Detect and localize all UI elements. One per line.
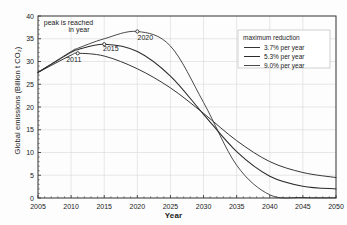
svg-text:2040: 2040 [262, 203, 278, 210]
svg-text:15: 15 [26, 126, 34, 133]
x-axis-title: Year [0, 211, 347, 220]
svg-text:40: 40 [26, 13, 34, 20]
svg-text:10: 10 [26, 149, 34, 156]
svg-text:2015: 2015 [103, 45, 119, 52]
svg-text:2020: 2020 [137, 34, 153, 41]
svg-text:3.7% per year: 3.7% per year [264, 44, 305, 52]
svg-text:2010: 2010 [63, 203, 79, 210]
svg-text:5: 5 [30, 172, 34, 179]
emissions-line-chart: 0510152025303540 20052010201520202025203… [0, 0, 347, 225]
svg-text:20: 20 [26, 104, 34, 111]
svg-text:2011: 2011 [66, 56, 81, 63]
svg-text:2020: 2020 [130, 203, 146, 210]
chart-plot-area: 0510152025303540 20052010201520202025203… [0, 0, 347, 225]
svg-text:5.3% per year: 5.3% per year [264, 53, 305, 61]
svg-text:2030: 2030 [196, 203, 212, 210]
svg-text:2005: 2005 [30, 203, 46, 210]
svg-text:2050: 2050 [328, 203, 344, 210]
svg-text:2035: 2035 [229, 203, 245, 210]
y-axis-title: Global emissions (Billion t CO₂) [13, 26, 22, 176]
svg-text:2045: 2045 [295, 203, 311, 210]
svg-text:in year: in year [69, 26, 91, 34]
svg-text:maximum reduction: maximum reduction [243, 34, 300, 41]
svg-text:9.0% per year: 9.0% per year [264, 62, 305, 70]
svg-text:2015: 2015 [96, 203, 112, 210]
svg-text:25: 25 [26, 81, 34, 88]
chart-legend: maximum reduction3.7% per year5.3% per y… [238, 30, 330, 70]
svg-text:35: 35 [26, 35, 34, 42]
svg-text:0: 0 [30, 195, 34, 202]
svg-text:30: 30 [26, 58, 34, 65]
svg-text:2025: 2025 [163, 203, 179, 210]
